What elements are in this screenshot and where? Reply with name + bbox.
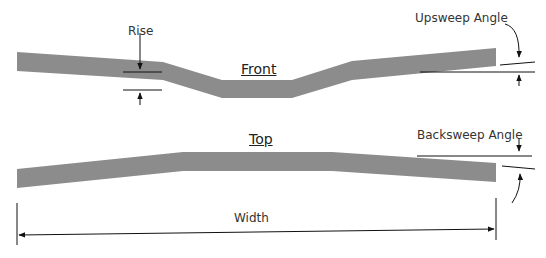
backsweep-angle-label: Backsweep Angle [417,128,523,142]
upsweep-angle-line [500,62,535,65]
backsweep-arrow-curve [512,174,520,203]
top-view-bar [17,152,496,188]
rise-label: Rise [128,24,153,38]
width-label: Width [234,211,269,225]
top-view-title: Top [249,131,273,147]
width-dimension-arrow [19,229,494,235]
upsweep-angle-label: Upsweep Angle [415,11,508,25]
front-view-title: Front [241,61,276,77]
upsweep-arrow-curve [505,24,519,57]
backsweep-angle-line [502,166,535,169]
